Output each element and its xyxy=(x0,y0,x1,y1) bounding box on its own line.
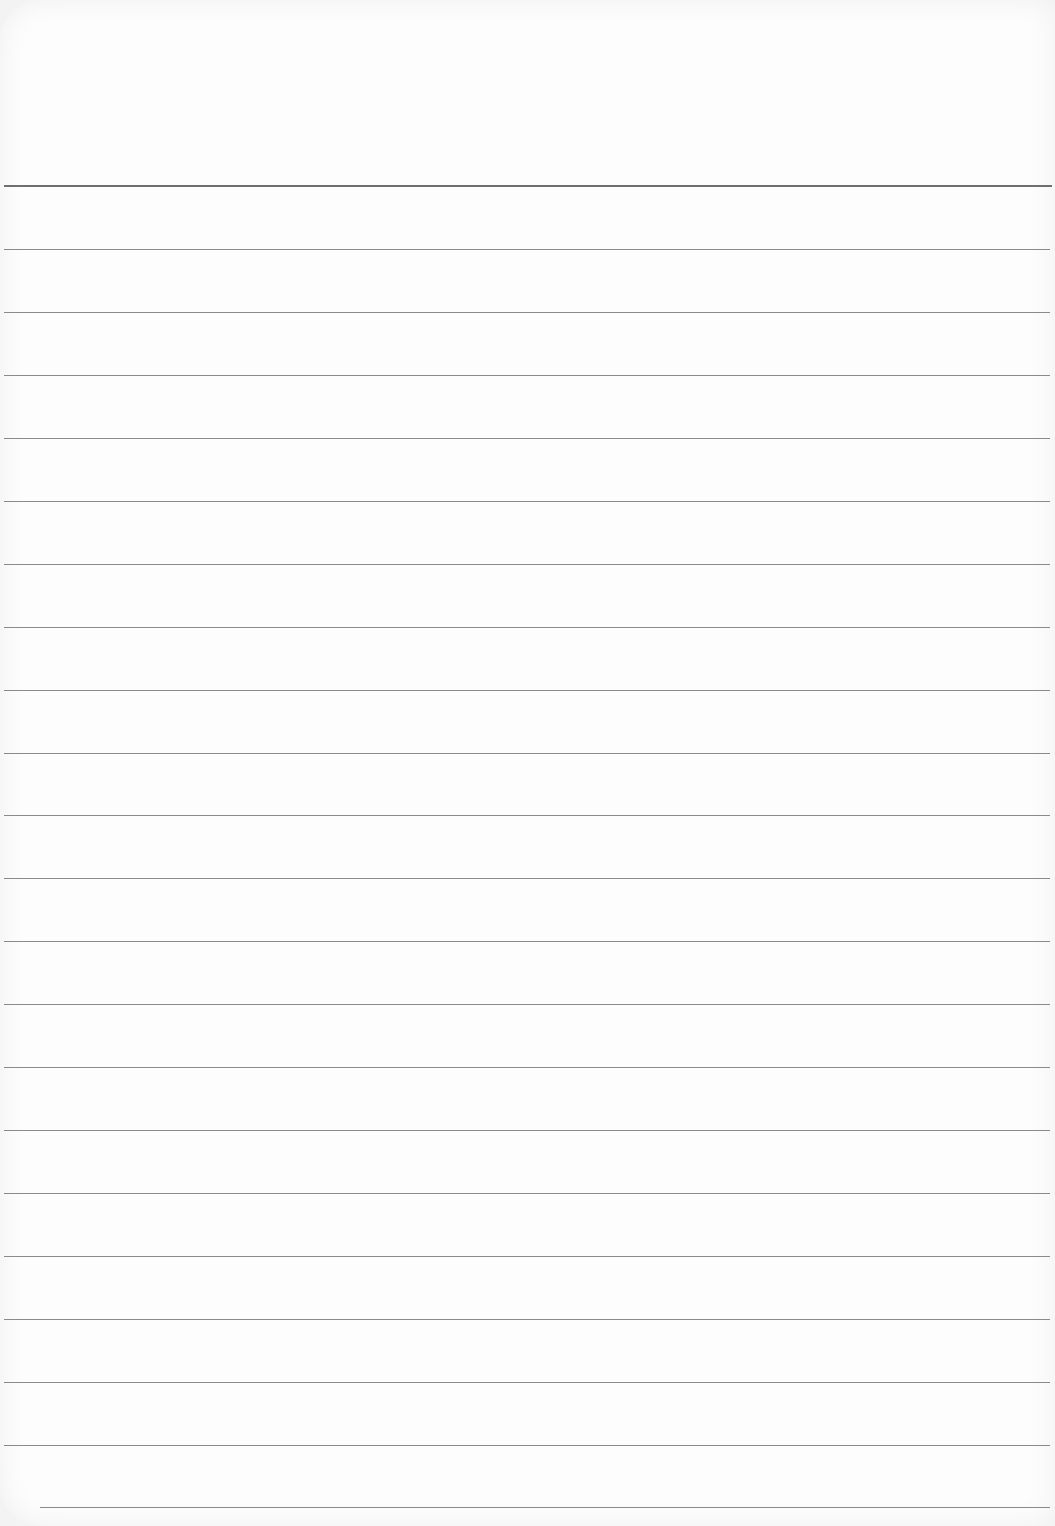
ruled-line xyxy=(4,1004,1050,1005)
ruled-line xyxy=(4,375,1050,376)
ruled-line xyxy=(4,1382,1050,1383)
ruled-line xyxy=(4,438,1050,439)
header-rule xyxy=(4,185,1052,187)
ruled-line xyxy=(4,878,1050,879)
ruled-line xyxy=(4,753,1050,754)
ruled-line xyxy=(4,1445,1050,1446)
ruled-line xyxy=(4,1319,1050,1320)
ruled-line xyxy=(40,1507,1050,1508)
ruled-line xyxy=(4,1193,1050,1194)
lined-paper-sheet xyxy=(0,0,1055,1526)
ruled-line xyxy=(4,501,1050,502)
ruled-line xyxy=(4,1130,1050,1131)
ruled-line xyxy=(4,690,1050,691)
ruled-line xyxy=(4,249,1050,250)
ruled-line xyxy=(4,1256,1050,1257)
header-blank-area xyxy=(0,0,1055,184)
ruled-line xyxy=(4,1067,1050,1068)
ruled-line xyxy=(4,815,1050,816)
ruled-line xyxy=(4,312,1050,313)
ruled-line xyxy=(4,564,1050,565)
ruled-line xyxy=(4,627,1050,628)
ruled-line xyxy=(4,941,1050,942)
